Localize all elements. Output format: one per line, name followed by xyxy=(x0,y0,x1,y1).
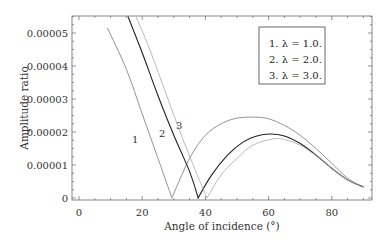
x-axis-title: Angle of incidence (°) xyxy=(163,220,279,232)
y-axis-title: Amplitude ratio xyxy=(18,66,30,150)
x-tick-label: 40 xyxy=(199,207,212,218)
legend-entry-2: 2. λ = 2.0. xyxy=(269,54,322,65)
legend: 1. λ = 1.0. 2. λ = 2.0. 3. λ = 3.0. xyxy=(259,27,325,84)
curve-label-2: 2 xyxy=(159,128,165,139)
legend-entry-3: 3. λ = 3.0. xyxy=(269,70,322,81)
y-tick-label: 0.00003 xyxy=(27,94,68,105)
y-tick-label: 0.00001 xyxy=(27,160,68,171)
amplitude-ratio-chart: 020406080 00.000010.000020.000030.000040… xyxy=(0,0,389,250)
curve-label-3: 3 xyxy=(176,120,182,131)
curve-3 xyxy=(136,17,364,199)
y-tick-label: 0.00002 xyxy=(27,127,68,138)
y-tick-label: 0.00005 xyxy=(27,28,68,39)
y-tick-label: 0.00004 xyxy=(27,61,68,72)
x-tick-label: 0 xyxy=(76,207,82,218)
y-tick-label: 0 xyxy=(62,193,68,204)
plot-frame xyxy=(72,16,372,200)
curve-2 xyxy=(128,17,363,199)
legend-entry-1: 1. λ = 1.0. xyxy=(269,38,322,49)
x-tick-label: 80 xyxy=(325,207,338,218)
x-tick-label: 60 xyxy=(262,207,275,218)
x-tick-label: 20 xyxy=(136,207,149,218)
curve-label-1: 1 xyxy=(132,134,138,145)
